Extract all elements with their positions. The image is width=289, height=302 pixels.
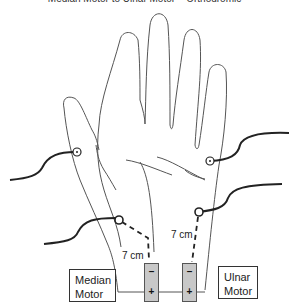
lead-wires	[10, 133, 289, 244]
negative-sign: –	[183, 266, 196, 277]
hand-outline	[63, 14, 226, 292]
median-recording-electrode: – +	[144, 263, 159, 302]
hand-diagram	[0, 0, 289, 302]
negative-sign: –	[145, 266, 158, 277]
median-motor-label-line1: Median	[75, 273, 110, 287]
lead-wire-thumb	[10, 152, 75, 180]
ulnar-recording-electrode: – +	[182, 263, 197, 302]
ulnar-motor-label-line2: Motor	[224, 284, 252, 298]
ulnar-distance-label: 7 cm	[171, 229, 193, 240]
ulnar-motor-box: Ulnar Motor	[218, 266, 258, 299]
ulnar-distance-line	[192, 217, 198, 262]
ulnar-motor-label-line1: Ulnar	[224, 270, 252, 284]
median-motor-box: Median Motor	[69, 269, 116, 302]
median-stim-point-icon	[115, 216, 123, 224]
lead-wire-median-stim	[44, 218, 116, 244]
median-distance-label: 7 cm	[122, 250, 144, 261]
median-motor-label-line2: Motor	[75, 287, 110, 301]
positive-sign: +	[183, 286, 196, 297]
lead-wire-ulnar-stim	[198, 184, 282, 212]
positive-sign: +	[145, 286, 158, 297]
ulnar-stim-point-icon	[195, 208, 203, 216]
